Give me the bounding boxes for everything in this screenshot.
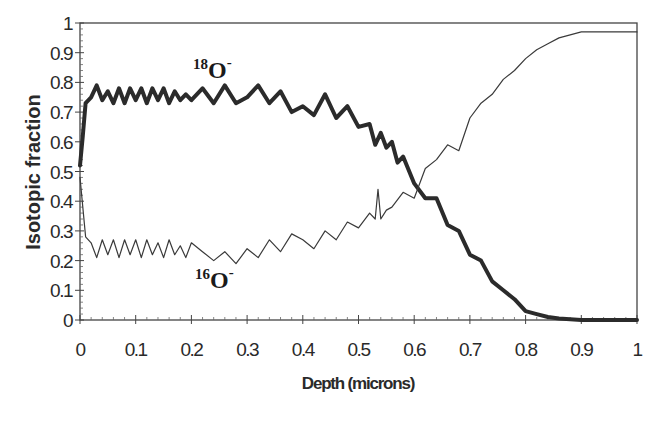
- y-tick-label: 0.6: [50, 132, 73, 153]
- x-tick-label: 1: [632, 339, 642, 360]
- x-tick-label: 0.9: [570, 339, 593, 360]
- y-tick-label: 0.7: [50, 102, 73, 123]
- x-axis-ticks: 00.10.20.30.40.50.60.70.80.91: [75, 315, 642, 360]
- x-axis-title: Depth (microns): [302, 374, 415, 393]
- plot-border: [80, 23, 637, 320]
- x-tick-label: 0.4: [292, 339, 316, 360]
- x-tick-label: 0.8: [515, 339, 538, 360]
- y-tick-label: 1: [63, 13, 73, 34]
- y-tick-label: 0.3: [50, 221, 73, 242]
- plot-frame: [80, 23, 637, 320]
- series-label-18o: 18O-: [193, 54, 232, 83]
- series-line-16o: [80, 32, 637, 264]
- series-line-18o: [80, 85, 637, 320]
- y-tick-label: 0.5: [50, 162, 73, 183]
- x-tick-label: 0.6: [403, 339, 426, 360]
- x-tick-label: 0.3: [236, 339, 259, 360]
- x-tick-label: 0.1: [125, 339, 148, 360]
- isotopic-fraction-chart: 00.10.20.30.40.50.60.70.80.91 00.10.20.3…: [0, 0, 663, 423]
- x-tick-label: 0: [75, 339, 85, 360]
- y-tick-label: 0.2: [50, 251, 73, 272]
- x-tick-label: 0.2: [180, 339, 203, 360]
- y-tick-label: 0.9: [50, 43, 73, 64]
- y-axis-title: Isotopic fraction: [22, 94, 44, 250]
- x-tick-label: 0.5: [348, 339, 371, 360]
- x-tick-label: 0.7: [459, 339, 482, 360]
- y-tick-label: 0.8: [50, 72, 73, 93]
- series-layer: [80, 32, 637, 320]
- y-tick-label: 0.4: [50, 191, 74, 212]
- series-label-16o: 16O-: [195, 264, 234, 293]
- y-tick-label: 0: [63, 310, 73, 331]
- y-axis-ticks: 00.10.20.30.40.50.60.70.80.91: [50, 13, 84, 331]
- y-tick-label: 0.1: [50, 280, 73, 301]
